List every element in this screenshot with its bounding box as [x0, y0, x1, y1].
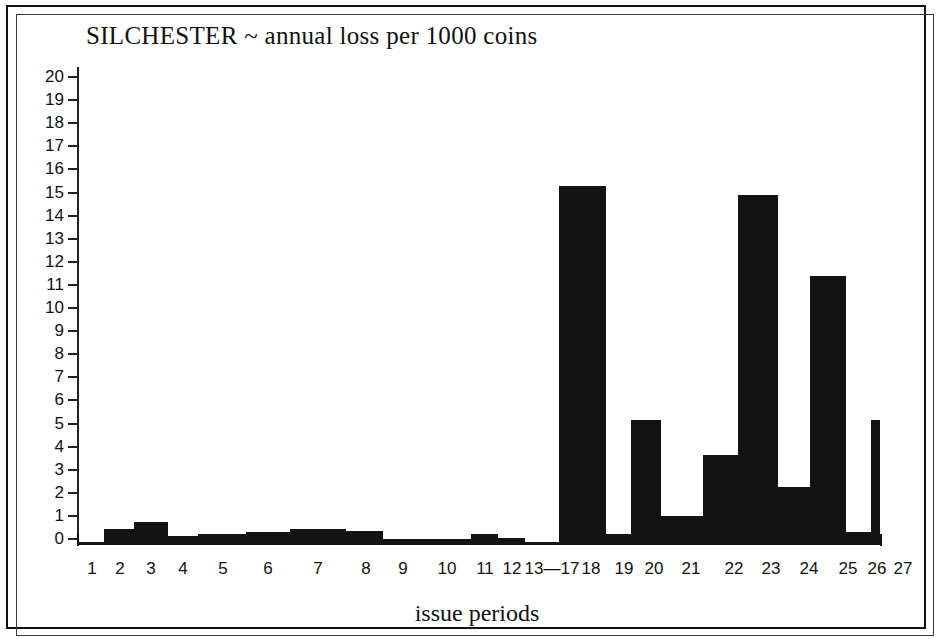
y-axis-tick-label: 8	[26, 345, 64, 362]
y-axis-tick-label-text: 20	[34, 68, 64, 85]
y-axis-tick-label-text: 4	[34, 438, 64, 455]
y-axis-tick-label-text: 7	[34, 368, 64, 385]
bar	[134, 522, 169, 544]
y-axis-tick-label-text: 10	[34, 299, 64, 316]
bar	[78, 542, 104, 544]
x-axis-tick-label: 27	[863, 559, 938, 579]
y-axis-tick-label: 3	[26, 461, 64, 478]
y-axis-tick-label: 14	[26, 207, 64, 224]
y-axis-tick-label-text: 0	[34, 530, 64, 547]
y-axis-tick-label: 19	[26, 91, 64, 108]
bar	[778, 487, 810, 544]
y-axis-tick-label: 6	[26, 391, 64, 408]
chart-page: SILCHESTER ~ annual loss per 1000 coins …	[0, 0, 938, 639]
y-axis-tick-label: 11	[26, 276, 64, 293]
bar	[383, 539, 423, 544]
bar	[290, 529, 346, 544]
bar	[631, 420, 661, 544]
y-axis-tick-label: 12	[26, 253, 64, 270]
bar	[168, 536, 198, 544]
bar	[606, 534, 631, 544]
chart-title: SILCHESTER ~ annual loss per 1000 coins	[86, 21, 538, 51]
y-axis-tick-label-text: 1	[34, 507, 64, 524]
bar	[498, 538, 525, 544]
y-axis-tick-label: 13	[26, 230, 64, 247]
x-axis-cap-right	[880, 534, 882, 546]
y-axis-tick-label-text: 6	[34, 391, 64, 408]
x-axis-tick-labels: 12345678910111213—1718192021222324252627	[78, 559, 880, 583]
figure-frame: SILCHESTER ~ annual loss per 1000 coins …	[6, 5, 926, 629]
bar	[423, 539, 471, 544]
y-axis-tick-label-text: 8	[34, 345, 64, 362]
y-axis-tick-label-text: 5	[34, 415, 64, 432]
bar	[871, 420, 880, 544]
bar	[346, 531, 383, 544]
y-axis-tick-label-text: 19	[34, 91, 64, 108]
y-axis-tick-label: 7	[26, 368, 64, 385]
x-axis-title: issue periods	[8, 599, 938, 627]
y-axis-tick-label: 5	[26, 415, 64, 432]
y-axis-tick-label: 20	[26, 68, 64, 85]
bar	[703, 455, 738, 544]
y-axis-tick-label-text: 16	[34, 160, 64, 177]
bar	[661, 516, 703, 544]
bar	[198, 534, 246, 544]
bar	[246, 532, 290, 544]
y-axis-tick-label: 4	[26, 438, 64, 455]
bar	[104, 529, 134, 544]
y-axis-tick-label-text: 15	[34, 184, 64, 201]
bar	[738, 195, 778, 544]
bar	[846, 532, 871, 544]
bar	[471, 534, 498, 544]
y-axis-tick-label: 15	[26, 184, 64, 201]
bar	[810, 276, 846, 544]
y-axis-tick-label-text: 9	[34, 322, 64, 339]
y-axis-tick-label: 10	[26, 299, 64, 316]
y-axis-tick-label-text: 11	[34, 276, 64, 293]
y-axis-tick-label-text: 3	[34, 461, 64, 478]
y-axis-tick-label-text: 13	[34, 230, 64, 247]
y-axis-tick-label-text: 12	[34, 253, 64, 270]
bar-series	[78, 67, 880, 544]
y-axis-tick-label: 18	[26, 114, 64, 131]
y-axis-tick-label-text: 2	[34, 484, 64, 501]
y-axis-tick-label: 17	[26, 137, 64, 154]
bar	[525, 542, 559, 544]
bar	[559, 186, 606, 544]
y-axis-tick-label: 2	[26, 484, 64, 501]
y-axis-tick-label: 0	[26, 530, 64, 547]
y-axis-tick-label-text: 17	[34, 137, 64, 154]
y-axis-tick-label: 16	[26, 160, 64, 177]
y-axis-tick-label: 9	[26, 322, 64, 339]
y-axis-tick-label-text: 18	[34, 114, 64, 131]
y-axis-tick-label-text: 14	[34, 207, 64, 224]
y-axis-tick-label: 1	[26, 507, 64, 524]
